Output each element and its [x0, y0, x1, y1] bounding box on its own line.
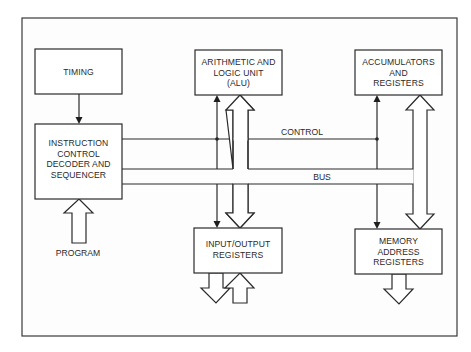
svg-text:(ALU): (ALU) [227, 78, 250, 88]
bus-label: BUS [313, 172, 331, 182]
svg-text:ACCUMULATORS: ACCUMULATORS [362, 57, 435, 67]
svg-text:INPUT/OUTPUT: INPUT/OUTPUT [206, 239, 271, 249]
accumulators-block: ACCUMULATORS AND REGISTERS [355, 50, 442, 95]
svg-text:AND: AND [389, 68, 407, 78]
svg-text:REGISTERS: REGISTERS [213, 250, 264, 260]
svg-text:REGISTERS: REGISTERS [373, 257, 424, 267]
io-registers-block: INPUT/OUTPUT REGISTERS [194, 228, 282, 273]
microprocessor-block-diagram: CONTROL BUS PROGR [0, 0, 471, 352]
svg-text:MEMORY: MEMORY [379, 236, 418, 246]
alu-block: ARITHMETIC AND LOGIC UNIT (ALU) [195, 50, 282, 95]
svg-text:SEQUENCER: SEQUENCER [51, 170, 106, 180]
memory-address-registers-block: MEMORY ADDRESS REGISTERS [355, 229, 442, 274]
svg-text:DECODER AND: DECODER AND [46, 159, 110, 169]
svg-text:ARITHMETIC AND: ARITHMETIC AND [202, 57, 276, 67]
svg-text:REGISTERS: REGISTERS [373, 78, 424, 88]
svg-text:INSTRUCTION: INSTRUCTION [49, 138, 109, 148]
svg-text:LOGIC UNIT: LOGIC UNIT [213, 68, 264, 78]
control-label: CONTROL [281, 127, 323, 137]
svg-text:TIMING: TIMING [63, 67, 94, 77]
timing-block: TIMING [35, 49, 122, 94]
program-label: PROGRAM [56, 248, 100, 258]
instruction-decoder-block: INSTRUCTION CONTROL DECODER AND SEQUENCE… [35, 124, 122, 199]
svg-text:ADDRESS: ADDRESS [377, 247, 419, 257]
svg-text:CONTROL: CONTROL [57, 149, 100, 159]
